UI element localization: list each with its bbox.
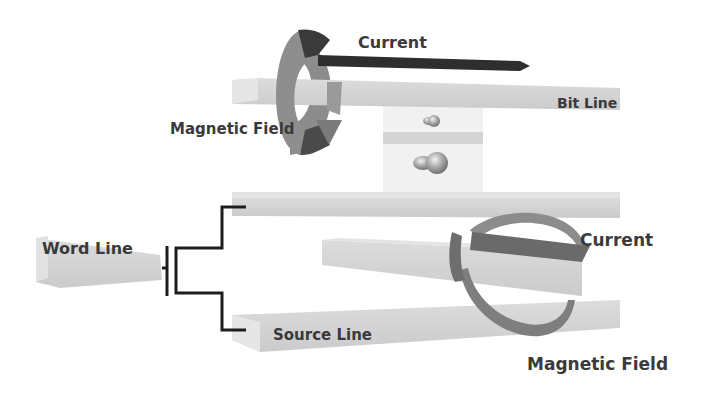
current-arrow-top <box>318 55 530 71</box>
upper-electrode-bar <box>232 192 620 218</box>
label-magnetic-field-bottom: Magnetic Field <box>527 354 668 374</box>
label-current-bottom: Current <box>580 230 653 250</box>
label-source-line: Source Line <box>273 326 372 344</box>
mram-diagram: Current Bit Line Magnetic Field Word Lin… <box>0 0 721 400</box>
label-magnetic-field-top: Magnetic Field <box>170 120 295 138</box>
mtj-stack <box>383 105 483 193</box>
tunnel-barrier <box>383 132 483 144</box>
access-transistor-wires <box>162 207 246 330</box>
label-current-top: Current <box>358 33 427 52</box>
label-word-line: Word Line <box>42 239 133 258</box>
label-bit-line: Bit Line <box>557 95 617 111</box>
